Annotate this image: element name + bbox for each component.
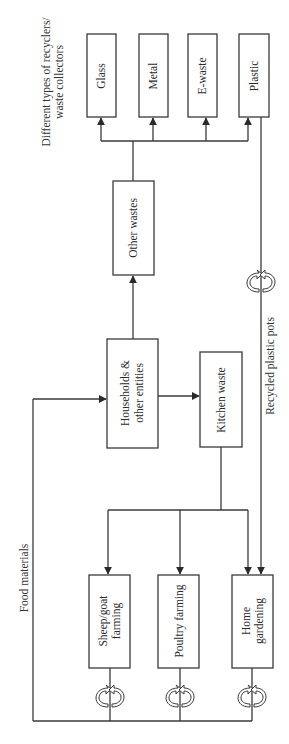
- waste-flow-diagram: Different types of recyclers/ waste coll…: [0, 0, 289, 744]
- recycler-ewaste: E-waste: [188, 34, 217, 117]
- header-line-2: waste collectors: [53, 45, 65, 119]
- node-poultry-farming: Poultry farming: [158, 575, 199, 668]
- node-home-gardening: Home gardening: [232, 575, 273, 668]
- sheep-goat-label-2: farming: [110, 603, 123, 640]
- recycler-metal: Metal: [139, 34, 168, 117]
- food-materials-label: Food materials: [18, 543, 30, 612]
- node-sheep-goat-farming: Sheep/goat farming: [89, 575, 130, 668]
- other-wastes-label: Other wastes: [127, 198, 139, 258]
- node-households: Households & other entities: [107, 339, 158, 448]
- home-gardening-label-2: gardening: [253, 598, 266, 644]
- header-line-1: Different types of recyclers/: [40, 17, 53, 147]
- poultry-label: Poultry farming: [173, 584, 186, 657]
- node-other-wastes: Other wastes: [113, 181, 154, 275]
- plastic-label: Plastic: [248, 61, 260, 92]
- kitchen-distribution-edges: [108, 447, 248, 574]
- households-label-2: other entities: [133, 363, 145, 423]
- ewaste-label: E-waste: [196, 57, 208, 94]
- kitchen-waste-label: Kitchen waste: [215, 367, 227, 432]
- recycler-plastic: Plastic: [239, 34, 269, 117]
- glass-label: Glass: [95, 63, 107, 89]
- recycled-plastic-pots-label: Recycled plastic pots: [264, 317, 277, 415]
- edge-recycled-plastic-pots: Recycled plastic pots: [247, 117, 277, 574]
- metal-label: Metal: [147, 63, 159, 90]
- sheep-goat-label-1: Sheep/goat: [97, 595, 110, 647]
- home-gardening-label-1: Home: [240, 607, 252, 635]
- recycler-distribution-edges: [101, 118, 248, 181]
- recycler-glass: Glass: [87, 34, 116, 117]
- recyclers-header: Different types of recyclers/ waste coll…: [40, 17, 65, 147]
- node-kitchen-waste: Kitchen waste: [200, 352, 242, 447]
- households-label-1: Households &: [119, 360, 131, 426]
